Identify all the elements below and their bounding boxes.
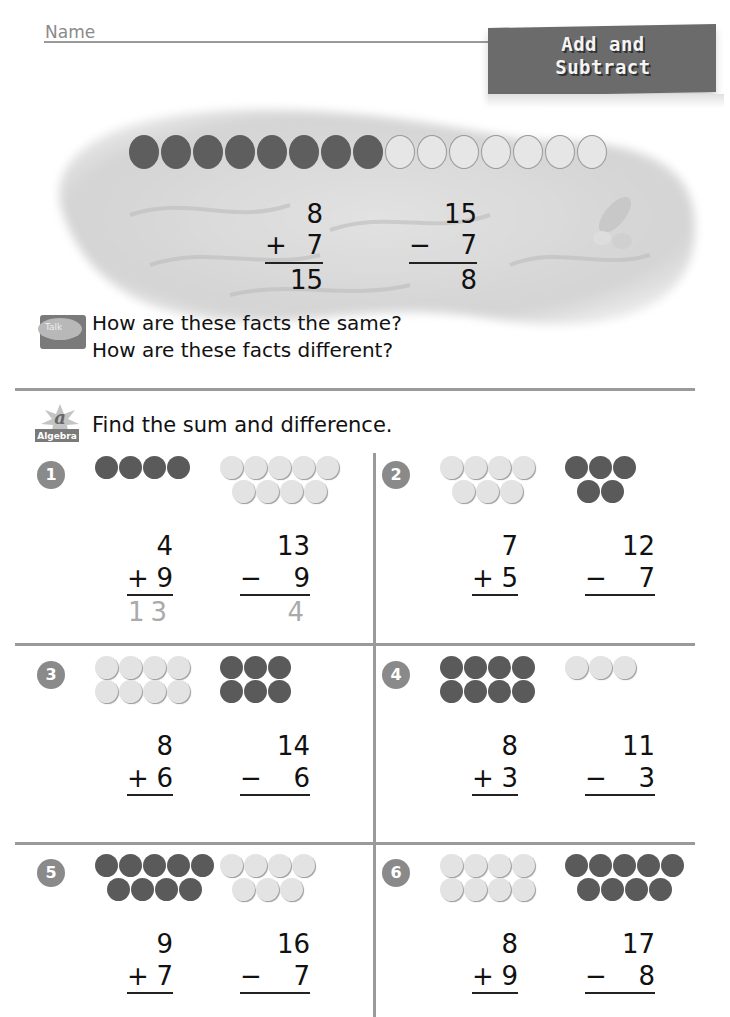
counter-dark [512,656,535,679]
problem-number-badge: 6 [382,859,410,887]
counter-dark [119,854,142,877]
answer-field[interactable] [585,596,655,628]
counter-light [244,854,267,877]
counter-dark [512,680,535,703]
problem-number-badge: 5 [37,859,65,887]
counter-dark [488,680,511,703]
counter-dark [268,680,291,703]
answer-field[interactable] [472,994,518,1017]
counter-dark [193,135,223,169]
section-divider [15,388,695,391]
add-equation: 9+7 [127,928,173,1017]
counter-dark [161,135,191,169]
counter-light [167,656,190,679]
counter-dark [225,135,255,169]
counter-light [256,878,279,901]
sub-equation: 13−94 [240,530,310,628]
svg-text:a: a [54,407,66,428]
counter-light [292,854,315,877]
sub-equation: 16−7 [240,928,310,1017]
counter-light [488,854,511,877]
counter-dark [440,656,463,679]
counter-light [512,456,535,479]
answer-field[interactable] [127,994,173,1017]
answer-field[interactable] [585,994,655,1017]
counter-light [232,878,255,901]
counter-light [268,456,291,479]
counter-dark [155,878,178,901]
add-equation: 4+913 [127,530,173,628]
counter-dark [613,854,636,877]
answer-field[interactable] [240,994,310,1017]
answer-field[interactable]: 13 [127,596,173,628]
counter-dark [191,854,214,877]
counter-dark [244,656,267,679]
counter-dark [131,878,154,901]
name-line[interactable] [44,41,488,43]
counter-light [464,878,487,901]
counter-dark [649,878,672,901]
sub-equation: 14−6 [240,730,310,828]
counter-light [513,135,543,169]
counter-light [613,656,636,679]
counter-light [488,456,511,479]
problem-number-badge: 4 [382,661,410,689]
counter-dark [220,656,243,679]
counter-light [268,854,291,877]
counter-dark [107,878,130,901]
counter-light [220,854,243,877]
counter-light [95,656,118,679]
counter-light [385,135,415,169]
counter-light [143,680,166,703]
talk-prompt: How are these facts the same? How are th… [92,310,402,364]
counter-light [481,135,511,169]
counter-light [119,656,142,679]
counter-dark [601,878,624,901]
counter-light [280,878,303,901]
equation-rule [409,262,477,264]
instruction: Find the sum and difference. [92,413,393,437]
counter-dark [119,456,142,479]
counter-dark [565,854,588,877]
counter-light [500,480,523,503]
answer-field[interactable] [585,796,655,828]
counter-dark [179,878,202,901]
counter-dark [257,135,287,169]
counter-light [589,656,612,679]
counter-light [316,456,339,479]
counter-dark [488,656,511,679]
counter-dark [167,456,190,479]
counter-dark [95,854,118,877]
counter-light [440,878,463,901]
counter-light [244,456,267,479]
counter-light [256,480,279,503]
counter-light [464,456,487,479]
grid-divider-horizontal [15,842,695,845]
answer-field[interactable] [472,596,518,628]
counter-dark [244,680,267,703]
answer-field[interactable] [472,796,518,828]
equation-rule [265,262,323,264]
answer-field[interactable]: 4 [240,596,310,628]
counter-light [220,456,243,479]
counter-dark [601,480,624,503]
counter-dark [321,135,351,169]
counter-light [232,480,255,503]
counter-light [292,456,315,479]
page-title: Add and Subtract [490,33,716,79]
counter-dark [143,854,166,877]
counter-light [488,878,511,901]
answer-field[interactable] [240,796,310,828]
svg-text:Algebra: Algebra [37,431,77,441]
add-equation: 7+5 [472,530,518,628]
counter-light [464,854,487,877]
grid-divider-vertical [373,453,376,1017]
counter-dark [464,656,487,679]
counter-dark [637,854,660,877]
problem-number-badge: 1 [37,461,65,489]
algebra-star-icon: a Algebra [35,402,85,442]
add-equation: 8+6 [127,730,173,828]
answer-field[interactable] [127,796,173,828]
counter-light [417,135,447,169]
name-label: Name [45,22,95,42]
